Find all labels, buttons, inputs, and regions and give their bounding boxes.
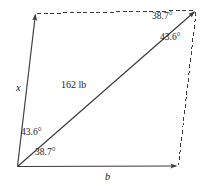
- dashed-edge-right: [179, 12, 197, 165]
- angle-label-top-right-lower: 43.6°: [160, 33, 180, 43]
- force-diagram-figure: 43.6° 38.7° 38.7° 43.6° 162 lb x b: [0, 0, 205, 188]
- figure-vector-graphic: [0, 0, 205, 188]
- side-label-x: x: [16, 83, 21, 94]
- angle-label-top-right-upper: 38.7°: [152, 12, 172, 22]
- angle-label-bottom-left-lower: 38.7°: [35, 148, 55, 158]
- vector-side-b: [18, 166, 177, 167]
- angle-label-bottom-left-upper: 43.6°: [21, 128, 41, 138]
- side-label-b: b: [105, 172, 110, 183]
- magnitude-label-resultant: 162 lb: [61, 80, 86, 90]
